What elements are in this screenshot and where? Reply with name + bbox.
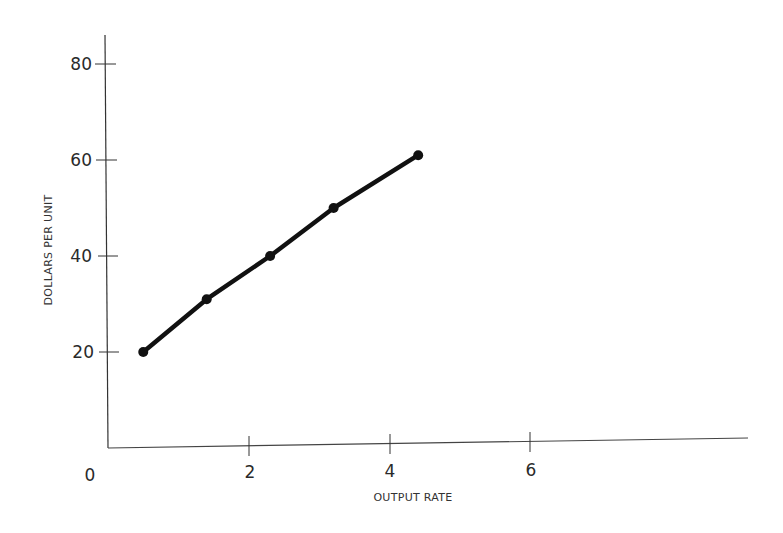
data-point [413, 150, 423, 160]
data-point [329, 203, 339, 213]
x-tick-label: 4 [385, 461, 396, 481]
data-point [202, 294, 212, 304]
y-tick-label: 80 [70, 54, 92, 74]
data-point [138, 347, 148, 357]
x-axis [108, 438, 748, 448]
x-tick-label: 6 [526, 460, 537, 480]
y-tick-label: 60 [70, 150, 92, 170]
x-ticks [249, 432, 530, 456]
y-tick-label: 20 [72, 342, 94, 362]
y-axis-label: DOLLARS PER UNIT [42, 194, 55, 305]
series-line [143, 155, 418, 352]
data-series [138, 150, 423, 357]
data-point [265, 251, 275, 261]
y-tick-label: 40 [70, 246, 92, 266]
origin-label: 0 [85, 465, 96, 485]
x-axis-label: OUTPUT RATE [373, 491, 452, 504]
chart: 80 60 40 20 2 4 6 0 OUTPUT RATE DOLLARS … [0, 0, 783, 533]
y-axis [105, 35, 108, 448]
x-tick-label: 2 [245, 462, 256, 482]
